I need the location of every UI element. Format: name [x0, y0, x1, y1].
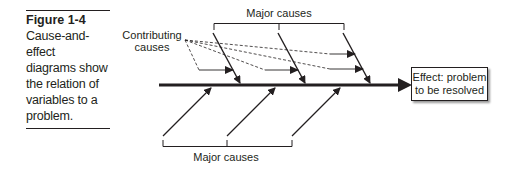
top-major-causes-label: Major causes: [246, 7, 312, 19]
contributing-cause-arrow-4: [185, 40, 363, 69]
top-major-cause-1: [213, 33, 240, 83]
contributing-causes-label: Contributing causes: [122, 29, 181, 53]
bottom-major-causes-label: Major causes: [193, 151, 259, 163]
top-major-cause-3: [343, 33, 370, 83]
top-major-cause-2: [278, 33, 305, 83]
effect-line-2: to be resolved: [415, 84, 484, 97]
bottom-major-causes-bracket: Major causes: [163, 140, 292, 163]
effect-box: Effect: problem to be resolved: [411, 67, 488, 101]
bottom-major-cause-1: [163, 88, 211, 136]
svg-text:causes: causes: [135, 41, 170, 53]
contributing-cause-arrow-2: [185, 40, 298, 70]
contributing-cause-arrow-3: [185, 40, 355, 54]
top-major-causes-bracket: Major causes: [214, 7, 344, 30]
spine-arrowhead-icon: [398, 78, 412, 92]
bottom-major-cause-3: [292, 88, 340, 136]
effect-line-1: Effect: problem: [413, 71, 487, 84]
bottom-major-cause-2: [227, 88, 275, 136]
svg-text:Contributing: Contributing: [122, 29, 181, 41]
contributing-cause-arrow-1: [185, 40, 233, 70]
